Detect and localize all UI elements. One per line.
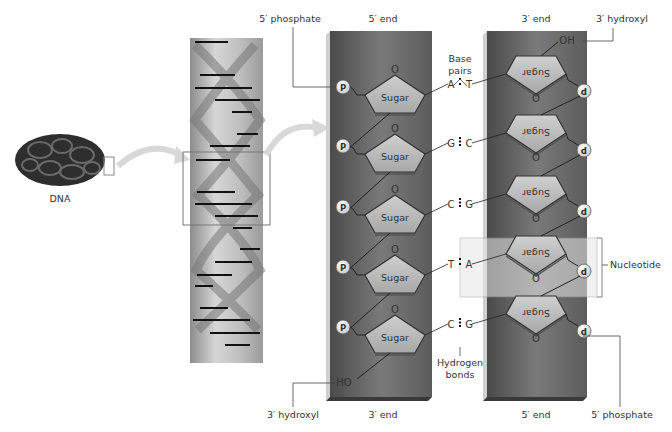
base-right: A	[466, 259, 473, 270]
oxygen-label: O	[391, 123, 399, 134]
base-right: C	[466, 138, 473, 149]
label-3-hydroxyl-bottom: 3′ hydroxyl	[267, 409, 319, 420]
base-left: T	[447, 259, 455, 270]
phosphate-label: P	[340, 83, 346, 93]
label-3-end-top: 3′ end	[521, 13, 550, 24]
zoom-arrow-icon	[266, 127, 318, 155]
base-pair: CG	[448, 318, 473, 330]
phosphate-label: P	[581, 266, 587, 276]
base-left: G	[447, 138, 455, 149]
sugar-label: Sugar	[522, 188, 550, 199]
base-left: C	[448, 319, 455, 330]
sugar-label: Sugar	[522, 308, 550, 319]
sugar-label: Sugar	[381, 92, 409, 103]
phosphate-label: P	[581, 206, 587, 216]
base-right: G	[465, 319, 473, 330]
hydrogen-bond-dot	[459, 322, 461, 324]
dna-label: DNA	[50, 193, 71, 204]
phosphate-label: P	[340, 263, 346, 273]
oxygen-label: O	[532, 152, 540, 163]
oxygen-label: O	[391, 244, 399, 255]
hydrogen-bond-dot	[459, 205, 461, 207]
label-3-hydroxyl-top: 3′ hydroxyl	[596, 13, 648, 24]
zoom-arrow-icon	[118, 149, 180, 166]
sugar-label: Sugar	[381, 272, 409, 283]
label-base-pairs-1: Base	[448, 53, 471, 64]
hydrogen-bond-dot	[459, 137, 461, 139]
sugar-label: Sugar	[522, 68, 550, 79]
ho-label: HO	[336, 377, 352, 388]
oxygen-label: O	[391, 184, 399, 195]
hydrogen-bond-dot	[459, 198, 461, 200]
oxygen-label: O	[391, 64, 399, 75]
oxygen-label: O	[532, 273, 540, 284]
hydrogen-bond-dot	[459, 141, 461, 143]
label-base-pairs-2: pairs	[448, 65, 471, 76]
oxygen-label: O	[391, 304, 399, 315]
hydrogen-bond-dot	[459, 325, 461, 327]
base-right: G	[465, 199, 473, 210]
oxygen-label: O	[532, 213, 540, 224]
hydrogen-bond-dot	[459, 83, 461, 85]
oxygen-label: O	[532, 333, 540, 344]
hydrogen-bond-dot	[459, 144, 461, 146]
hydrogen-bond-dot	[459, 318, 461, 320]
base-left: C	[448, 199, 455, 210]
base-right: T	[465, 79, 473, 90]
sugar-label: Sugar	[522, 127, 550, 138]
hydrogen-bond-dot	[459, 258, 461, 260]
sugar-label: Sugar	[522, 248, 550, 259]
label-5-end-top: 5′ end	[368, 13, 397, 24]
label-5-phosphate-top: 5′ phosphate	[259, 13, 321, 24]
label-5-phosphate-bottom: 5′ phosphate	[591, 409, 653, 420]
base-pair: GC	[447, 137, 472, 149]
label-3-end-bottom: 3′ end	[368, 409, 397, 420]
dna-coil-icon	[15, 134, 114, 186]
phosphate-label: P	[581, 86, 587, 96]
phosphate-label: P	[581, 145, 587, 155]
phosphate-label: P	[340, 323, 346, 333]
label-hydrogen-2: bonds	[446, 369, 475, 380]
label-5-end-bottom: 5′ end	[521, 409, 550, 420]
hydrogen-bond-dot	[459, 263, 461, 265]
label-hydrogen-1: Hydrogen	[437, 357, 483, 368]
base-left: A	[448, 79, 455, 90]
sugar-label: Sugar	[381, 151, 409, 162]
sugar-label: Sugar	[381, 332, 409, 343]
hydrogen-bond-dot	[459, 202, 461, 204]
phosphate-label: P	[340, 142, 346, 152]
sugar-label: Sugar	[381, 212, 409, 223]
double-helix	[183, 38, 270, 363]
oh-label: OH	[559, 35, 574, 46]
dna-structure-diagram: DNA	[0, 0, 672, 432]
label-nucleotide: Nucleotide	[610, 259, 661, 270]
phosphate-label: P	[581, 326, 587, 336]
oxygen-label: O	[532, 93, 540, 104]
phosphate-label: P	[340, 203, 346, 213]
base-pair: CG	[448, 198, 473, 210]
